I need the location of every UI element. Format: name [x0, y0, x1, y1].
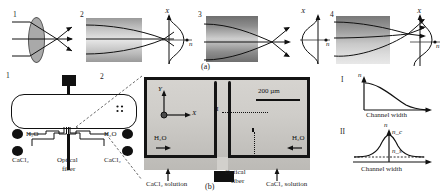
micrograph-flow-arrows [150, 143, 308, 157]
step-2-axis-n-label: n [189, 41, 193, 48]
step-4-index-profile [408, 12, 442, 70]
scale-bar-label: 200 µm [258, 88, 280, 95]
plot-II-number: II [340, 128, 345, 136]
plot-I-number: I [341, 76, 344, 84]
figure-root: 1 2 [0, 0, 443, 195]
port-cacl2-left [12, 146, 23, 156]
micrograph-number: 2 [100, 73, 104, 81]
step-1-rays [12, 14, 74, 66]
channel-wall-top [144, 77, 310, 80]
step-3-axis-x-label: X [301, 8, 305, 15]
micrograph-label-water-right: H₂O [292, 135, 305, 142]
label-cacl2-left: CaCl₂ [12, 157, 29, 164]
plot-I-graph [356, 74, 436, 114]
plot-II-baseline-label: n_s [392, 148, 402, 155]
step-3-rays [196, 12, 296, 68]
label-water-left: H₂O [26, 131, 39, 138]
section-marker-II: II [214, 106, 219, 113]
panel-a: 1 2 [0, 0, 443, 72]
micrograph-axis-x-label: X [192, 110, 196, 117]
section-line-horizontal [222, 112, 268, 113]
micrograph-axes [158, 87, 204, 121]
panel-b-caption: (b) [205, 182, 214, 191]
chip-number: 1 [6, 72, 10, 80]
channel-wall-left [144, 77, 147, 157]
micrograph-label-water-left: H₂O [154, 135, 167, 142]
micrograph-image: Y X II 200 µm H₂O H₂O [144, 77, 310, 170]
step-4-axis-x-label: X [417, 8, 421, 15]
micrograph-fiber-label-line2: fiber [231, 178, 244, 185]
micrograph-label-cacl2-left: CaCl₂ solution [146, 181, 187, 188]
step-4-axis-n-label: n [436, 43, 440, 50]
plot-II-x-label: Channel width [361, 166, 402, 173]
panel-b: 1 H₂O H₂O CaCl₂ CaCl₂ Optical fib [0, 72, 443, 195]
plot-I-y-label: n [358, 72, 362, 79]
step-2-axis-x-label: X [165, 8, 169, 15]
micrograph-fiber-label-line1: Optical [225, 169, 246, 176]
panel-a-caption: (a) [201, 62, 210, 71]
port-water-left [12, 129, 23, 139]
micrograph-label-cacl2-right: CaCl₂ solution [266, 181, 307, 188]
scale-bar [256, 99, 300, 101]
plot-I-x-label: Channel width [366, 112, 407, 119]
section-marker-exclaim [252, 128, 254, 132]
plot-II-y-label: n [384, 122, 388, 129]
micrograph-axis-y-label: Y [158, 86, 162, 93]
plot-II-peak-label: n_c [392, 129, 402, 136]
step-2-rays [78, 14, 168, 66]
